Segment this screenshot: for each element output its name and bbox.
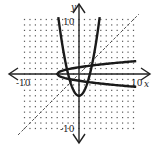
y-max-tick-label: 10 xyxy=(63,18,74,27)
x-axis-label: x xyxy=(144,80,149,89)
y-axis-label: y xyxy=(71,3,76,12)
x-max-tick-label: 10 xyxy=(131,79,142,88)
y-min-tick-label: -10 xyxy=(60,125,75,134)
graph xyxy=(0,0,159,147)
x-min-tick-label: -10 xyxy=(16,79,31,88)
